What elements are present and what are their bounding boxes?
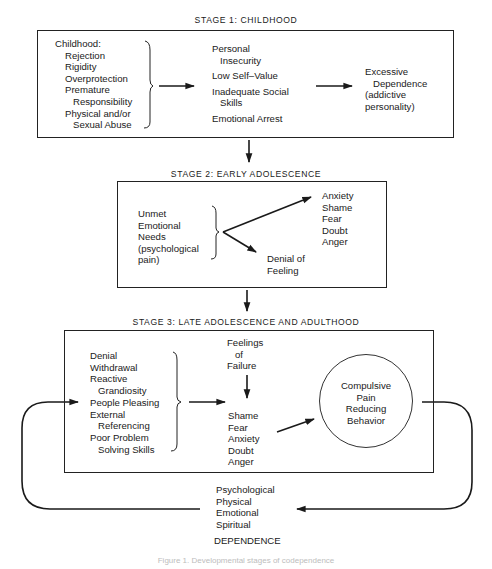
stage1-cause-item: Sexual Abuse bbox=[55, 119, 132, 131]
stage2-source: Unmet Emotional Needs (psychological pai… bbox=[138, 208, 199, 266]
stage1-causes-heading: Childhood: bbox=[55, 38, 132, 50]
stage3-trigger: Feelings of Failure bbox=[227, 337, 263, 372]
stage1-effect-item: Emotional Arrest bbox=[212, 113, 289, 125]
stage1-effects: Personal Insecurity Low Self–Value Inade… bbox=[212, 43, 289, 125]
stage1-effect-item: Inadequate Social Skills bbox=[212, 86, 289, 109]
stage1-cause-item: Rejection bbox=[55, 50, 132, 62]
stage1-outcome: Excessive Dependence (addictive personal… bbox=[365, 66, 427, 112]
stage2-title: STAGE 2: EARLY ADOLESCENCE bbox=[0, 169, 492, 179]
stage3-title: STAGE 3: LATE ADOLESCENCE AND ADULTHOOD bbox=[0, 317, 492, 327]
stage3-emotions: Shame Fear Anxiety Doubt Anger bbox=[228, 410, 259, 468]
stage1-cause-item: Premature bbox=[55, 84, 132, 96]
stage2-upper-outcome: Anxiety Shame Fear Doubt Anger bbox=[322, 190, 353, 248]
stage1-cause-item: Responsibility bbox=[55, 96, 132, 108]
stage1-causes: Childhood: Rejection Rigidity Overprotec… bbox=[55, 38, 132, 131]
stage1-cause-item: Overprotection bbox=[55, 73, 132, 85]
figure-caption: Figure 1. Developmental stages of codepe… bbox=[0, 556, 492, 565]
dependence-types: Psychological Physical Emotional Spiritu… bbox=[216, 484, 275, 530]
stage1-cause-item: Rigidity bbox=[55, 61, 132, 73]
stage2-lower-outcome: Denial of Feeling bbox=[267, 253, 305, 276]
stage1-effect-item: Low Self–Value bbox=[212, 70, 289, 82]
stage3-defenses: Denial Withdrawal Reactive Grandiosity P… bbox=[90, 350, 159, 455]
stage1-effect-item: Personal Insecurity bbox=[212, 43, 289, 66]
dependence-label: DEPENDENCE bbox=[214, 535, 281, 547]
stage1-cause-item: Physical and/or bbox=[55, 108, 132, 120]
stage1-title: STAGE 1: CHILDHOOD bbox=[0, 15, 492, 25]
stage3-behavior: Compulsive Pain Reducing Behavior bbox=[319, 380, 413, 426]
